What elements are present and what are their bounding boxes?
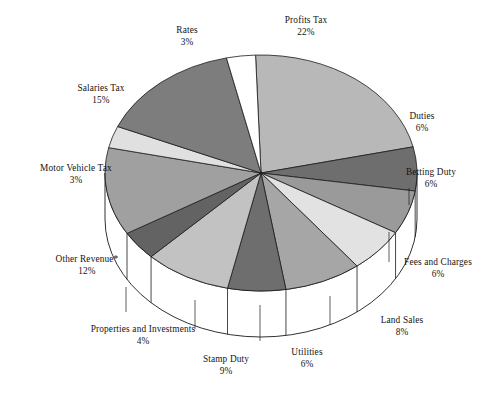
slice-label-value: 3% [141,36,233,48]
slice-label-value: 6% [367,122,477,134]
slice-label-name: Land Sales [347,314,457,326]
slice-label-value: 6% [376,268,500,280]
slice-label-rates: Rates 3% [141,24,233,49]
slice-label-properties-and-investments: Properties and Investments 4% [53,323,233,348]
slice-label-betting-duty: Betting Duty 6% [371,166,491,191]
slice-label-land-sales: Land Sales 8% [347,314,457,339]
slice-label-name: Stamp Duty [175,353,277,365]
slice-label-value: 9% [175,365,277,377]
slice-label-name: Other Revenue* [22,253,152,265]
slice-label-salaries-tax: Salaries Tax 15% [47,82,155,107]
slice-label-name: Rates [141,24,233,36]
slice-label-value: 6% [371,178,491,190]
slice-label-duties: Duties 6% [367,110,477,135]
slice-label-value: 3% [8,174,144,186]
slice-label-value: 12% [22,265,152,277]
slice-label-name: Fees and Charges [376,256,500,268]
slice-label-name: Betting Duty [371,166,491,178]
slice-label-other-revenue: Other Revenue* 12% [22,253,152,278]
slice-label-name: Salaries Tax [47,82,155,94]
pie-chart: Profits Tax 22% Duties 6% Betting Duty 6… [0,0,501,397]
slice-label-value: 4% [53,335,233,347]
slice-label-name: Properties and Investments [53,323,233,335]
slice-label-value: 8% [347,326,457,338]
slice-label-stamp-duty: Stamp Duty 9% [175,353,277,378]
slice-label-profits-tax: Profits Tax 22% [246,14,366,39]
slice-label-value: 15% [47,94,155,106]
slice-label-value: 22% [246,26,366,38]
slice-label-motor-vehicle-tax: Motor Vehicle Tax 3% [8,162,144,187]
slice-label-name: Profits Tax [246,14,366,26]
slice-label-fees-and-charges: Fees and Charges 6% [376,256,500,281]
slice-label-name: Duties [367,110,477,122]
slice-label-name: Motor Vehicle Tax [8,162,144,174]
